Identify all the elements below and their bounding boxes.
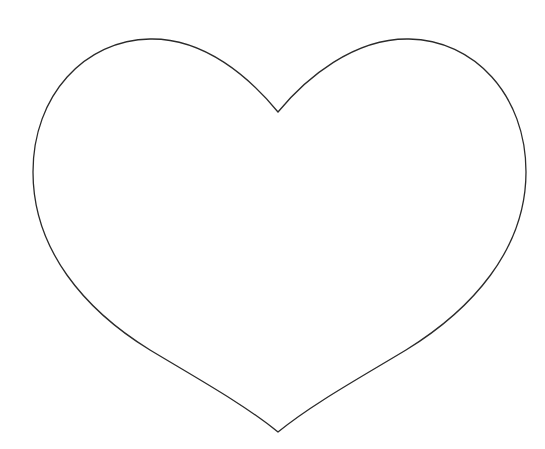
- drawing-canvas: [0, 0, 545, 449]
- heart-outline-drawing: [0, 0, 545, 449]
- heart-outline-icon: [33, 39, 526, 432]
